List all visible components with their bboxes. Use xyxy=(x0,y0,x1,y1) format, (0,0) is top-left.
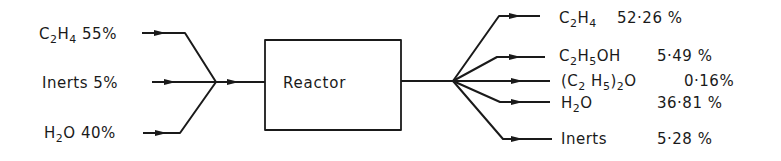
output-species-c2h4: C2H4 xyxy=(559,10,597,26)
arrow-icon xyxy=(509,54,521,60)
reactor-label: Reactor xyxy=(283,74,346,92)
output-percent-h2o: 36·81 % xyxy=(657,95,722,111)
species: H2O xyxy=(44,124,76,142)
arrow-icon xyxy=(511,136,523,142)
arrow-icon xyxy=(511,99,523,105)
percent: 5% xyxy=(93,74,118,92)
output-percent-c2h4: 52·26 % xyxy=(617,10,682,26)
output-species-c2h5oh: C2H5OH xyxy=(559,48,621,64)
output-species-inerts: Inerts xyxy=(561,131,607,147)
species: Inerts xyxy=(42,74,88,92)
output-percent-ether: 0·16% xyxy=(684,73,734,89)
arrow-icon xyxy=(155,130,167,136)
input-label-c2h4: C2H4 55% xyxy=(39,26,117,42)
arrow-icon xyxy=(227,79,239,85)
input-stream-c2h4 xyxy=(142,33,216,82)
output-stream-c2h4 xyxy=(453,16,540,81)
arrow-icon xyxy=(511,78,523,84)
percent: 55% xyxy=(82,25,117,43)
input-label-inerts: Inerts 5% xyxy=(42,75,118,91)
arrow-icon xyxy=(164,79,176,85)
output-species-h2o: H2O xyxy=(561,95,593,111)
arrow-icon xyxy=(509,13,521,19)
output-percent-c2h5oh: 5·49 % xyxy=(657,48,712,64)
input-label-h2o: H2O 40% xyxy=(44,125,116,141)
input-stream-h2o xyxy=(143,82,216,133)
percent: 40% xyxy=(81,124,116,142)
arrow-icon xyxy=(154,30,166,36)
species: C2H4 xyxy=(39,25,77,43)
output-percent-inerts: 5·28 % xyxy=(657,131,712,147)
output-species-ether: (C2 H5)2O xyxy=(561,73,637,89)
output-stream-inerts xyxy=(453,81,552,139)
